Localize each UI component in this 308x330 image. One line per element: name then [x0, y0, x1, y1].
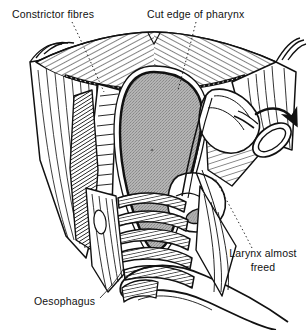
label-cut-edge-of-pharynx: Cut edge of pharynx: [147, 8, 245, 20]
label-oesophagus: Oesophagus: [34, 295, 95, 307]
label-larynx-almost-freed-line2: freed: [251, 261, 276, 273]
anatomical-figure: Constrictor fibres Cut edge of pharynx L…: [0, 0, 308, 330]
label-constrictor-fibres: Constrictor fibres: [12, 8, 94, 20]
illustration-canvas: Constrictor fibres Cut edge of pharynx L…: [0, 0, 308, 330]
label-larynx-almost-freed-line1: Larynx almost: [229, 247, 296, 259]
